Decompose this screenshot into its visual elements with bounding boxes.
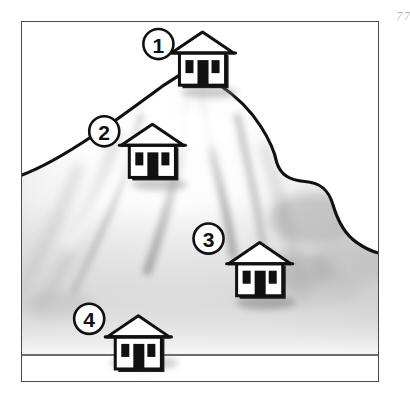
marker-3[interactable]: 3: [193, 224, 223, 254]
house-window-right: [212, 60, 220, 73]
house-window-right: [161, 152, 169, 165]
house-window-left: [135, 152, 143, 165]
house-window-left: [121, 344, 129, 357]
marker-2[interactable]: 2: [89, 116, 119, 146]
house-door: [133, 344, 144, 369]
house-door: [255, 271, 266, 296]
marker-label: 3: [203, 228, 215, 251]
marker-label: 2: [98, 121, 110, 144]
house-window-left: [243, 271, 251, 284]
house-door: [197, 60, 208, 85]
marker-1[interactable]: 1: [143, 29, 173, 59]
mountain-scene: 1 2 3 4: [22, 22, 378, 381]
marker-4[interactable]: 4: [74, 304, 104, 334]
figure-stage: 1 2 3 4 7 7: [0, 0, 410, 397]
house-window-left: [185, 60, 193, 73]
house-window-right: [147, 344, 155, 357]
marker-label: 1: [153, 34, 165, 57]
house-roof: [171, 32, 233, 53]
edge-note-text: 7 7: [396, 8, 410, 42]
figure-frame: 1 2 3 4: [21, 21, 379, 382]
house-window-right: [269, 271, 277, 284]
marker-label: 4: [83, 308, 95, 331]
house-door: [147, 152, 158, 177]
